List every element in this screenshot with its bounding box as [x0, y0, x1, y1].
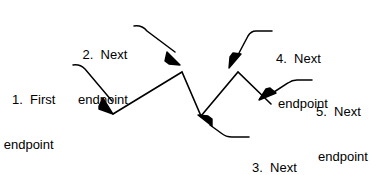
polyline-segments — [113, 72, 271, 116]
callout-2-leader-group — [134, 26, 180, 65]
callout-3-leader-line — [210, 125, 249, 137]
callout-3-leader-group — [198, 115, 249, 137]
polyline-path — [113, 72, 271, 116]
callout-2-leader-line — [134, 26, 175, 52]
callout-3-arrowhead-icon — [198, 115, 212, 126]
callout-4-label-line-1: 4. Next — [276, 51, 328, 66]
callout-2-label-line-1: 2. Next — [82, 47, 128, 62]
callout-4-arrowhead-icon — [229, 53, 241, 68]
callout-5-label-line-2: endpoint — [318, 149, 368, 164]
diagram-canvas: 1. First endpoint 2. Next endpoint 3. Ne… — [0, 0, 391, 175]
callout-2-arrowhead-icon — [165, 52, 180, 65]
callout-1-label-line-2: endpoint — [2, 137, 55, 152]
callout-2-label-line-2: endpoint — [78, 92, 128, 107]
callout-2-label: 2. Next endpoint — [82, 17, 128, 137]
callout-1-label-line-1: 1. First — [12, 92, 55, 107]
callout-4-leader-group — [229, 31, 272, 68]
callout-5-label: 5. Next endpoint — [316, 74, 368, 175]
callout-5-label-line-1: 5. Next — [316, 104, 368, 119]
callout-4-leader-line — [239, 31, 272, 53]
callout-3-label-line-1: 3. Next — [252, 160, 316, 175]
callout-1-label: 1. First endpoint — [12, 62, 55, 175]
